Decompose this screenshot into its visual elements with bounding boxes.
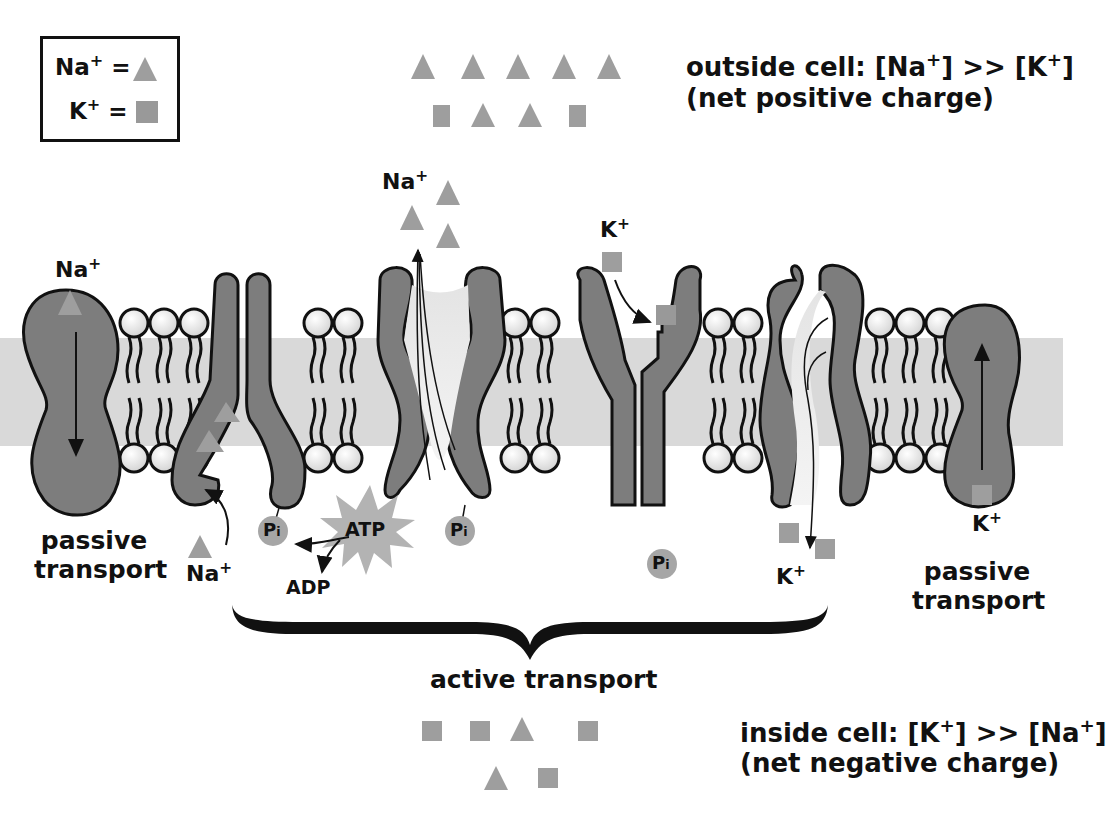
k-label-right-passive: K+ (972, 510, 1002, 537)
atp-label: ATP (345, 519, 385, 541)
passive-right-line2: transport (912, 587, 1042, 616)
na-label-left-passive: Na+ (55, 256, 101, 283)
active-transport-brace (232, 605, 828, 660)
outside-line1-suffix: ] (1062, 52, 1074, 82)
plus-sup: + (939, 715, 954, 736)
pi-sub: i (665, 557, 669, 572)
outside-cell-label: outside cell: [Na+] >> [K+] (686, 50, 1074, 83)
bound-k-square-icon (656, 305, 676, 325)
plus-sup: + (793, 562, 806, 580)
outside-line1-prefix: outside cell: [Na (686, 52, 926, 82)
plus-sup: + (88, 255, 101, 273)
pump-stage-2 (378, 250, 505, 498)
k-label-inside: K+ (776, 563, 806, 590)
plus-sup: + (1079, 715, 1094, 736)
plus-sup: + (1047, 49, 1062, 70)
na-text: Na (186, 561, 219, 586)
pi-label-2: Pi (450, 520, 468, 541)
pi-sub: i (276, 524, 280, 539)
inside-line1-mid: ] >> [Na (955, 718, 1080, 748)
inside-line1-suffix: ] (1095, 718, 1107, 748)
pi-label-1: Pi (263, 520, 281, 541)
plus-sup: + (926, 49, 941, 70)
k-label-pump-in: K+ (600, 216, 630, 243)
pi-text: P (450, 519, 463, 540)
inside-line1: inside cell: [K+] >> [Na+] (740, 716, 1050, 749)
k-text: K (600, 217, 617, 242)
plus-sup: + (415, 167, 428, 185)
outside-charge-label: (net positive charge) (686, 84, 994, 114)
pi-text: P (263, 519, 276, 540)
outside-ions (58, 54, 622, 315)
inside-cell-label: inside cell: [K+] >> [Na+] (net negative… (740, 716, 1050, 779)
passive-left-line2: transport (34, 556, 154, 585)
plus-sup: + (989, 509, 1002, 527)
passive-transport-left-label: passive transport (34, 527, 154, 585)
plus-sup: + (617, 215, 630, 233)
na-text: Na (382, 169, 415, 194)
outside-line1-mid: ] >> [K (941, 52, 1047, 82)
na-label-inside: Na+ (186, 560, 232, 587)
adp-label: ADP (286, 577, 330, 599)
inside-charge-label: (net negative charge) (740, 749, 1050, 779)
pi-label-3: Pi (652, 553, 670, 574)
pi-sub: i (463, 524, 467, 539)
plus-sup: + (219, 559, 232, 577)
inside-line1-prefix: inside cell: [K (740, 718, 939, 748)
k-text: K (776, 564, 793, 589)
na-label-pump-out: Na+ (382, 168, 428, 195)
passive-left-line1: passive (34, 527, 154, 556)
pi-text: P (652, 552, 665, 573)
active-transport-label: active transport (430, 666, 657, 695)
na-text: Na (55, 257, 88, 282)
passive-transport-right-label: passive transport (912, 558, 1042, 616)
k-text: K (972, 511, 989, 536)
passive-right-line1: passive (912, 558, 1042, 587)
